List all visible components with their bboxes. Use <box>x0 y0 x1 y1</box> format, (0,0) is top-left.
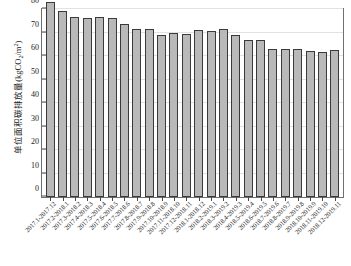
bar[interactable] <box>244 40 253 197</box>
bar-slot <box>316 9 328 197</box>
bar-slot <box>155 9 167 197</box>
bar[interactable] <box>169 33 178 198</box>
y-axis-tick-label: 30 <box>31 113 39 122</box>
bar-slot <box>254 9 266 197</box>
bar-slot <box>242 9 254 197</box>
bar-slot <box>56 9 68 197</box>
y-axis-tick-label: 10 <box>31 160 39 169</box>
bar[interactable] <box>157 35 166 197</box>
y-axis-title-sup: 2 <box>13 44 19 47</box>
bar-chart-figure: 单位面积碳排放量(kgCO2/m2) 01020304050607080 201… <box>0 0 351 266</box>
bar-slot <box>118 9 130 197</box>
bar[interactable] <box>268 49 277 197</box>
bar[interactable] <box>330 50 339 197</box>
y-axis-title-sub: 2 <box>17 56 23 59</box>
bar-slot <box>230 9 242 197</box>
bar-slot <box>94 9 106 197</box>
bar[interactable] <box>145 29 154 197</box>
bar-slot <box>193 9 205 197</box>
bar-slot <box>69 9 81 197</box>
y-axis-title-mid: /m <box>13 47 23 56</box>
bar-series <box>42 9 343 197</box>
bar-slot <box>292 9 304 197</box>
y-axis-tick-label: 60 <box>31 43 39 52</box>
bar[interactable] <box>306 51 315 197</box>
bar-slot <box>279 9 291 197</box>
y-axis-title-prefix: 单位面积碳排放量(kgCO <box>13 59 23 154</box>
bar[interactable] <box>231 35 240 197</box>
bar-slot <box>304 9 316 197</box>
y-axis-tick-label: 20 <box>31 137 39 146</box>
bar[interactable] <box>219 29 228 197</box>
bar-slot <box>131 9 143 197</box>
bar-slot <box>44 9 56 197</box>
bar[interactable] <box>256 40 265 197</box>
bar[interactable] <box>95 17 104 197</box>
bar[interactable] <box>108 18 117 197</box>
bar[interactable] <box>46 2 55 197</box>
bar[interactable] <box>58 11 67 197</box>
bar[interactable] <box>194 30 203 197</box>
bar-slot <box>217 9 229 197</box>
bar[interactable] <box>83 18 92 197</box>
bar[interactable] <box>318 52 327 197</box>
bar-slot <box>205 9 217 197</box>
bar-slot <box>267 9 279 197</box>
bar[interactable] <box>293 49 302 197</box>
bar[interactable] <box>132 29 141 197</box>
bar-slot <box>329 9 341 197</box>
y-axis-tick-label: 40 <box>31 90 39 99</box>
bar[interactable] <box>281 49 290 197</box>
x-axis-labels: 2017.1-2017.122017.2-2018.12017.3-2018.2… <box>41 200 344 262</box>
bar[interactable] <box>182 34 191 197</box>
bar[interactable] <box>207 31 216 197</box>
y-axis-tick-label: 80 <box>31 0 39 5</box>
bar-slot <box>168 9 180 197</box>
bar-slot <box>180 9 192 197</box>
bar-slot <box>106 9 118 197</box>
y-axis-tick-label: 70 <box>31 19 39 28</box>
y-axis-tick-label: 0 <box>35 184 39 193</box>
bar-slot <box>143 9 155 197</box>
bar[interactable] <box>120 24 129 197</box>
bar[interactable] <box>70 17 79 197</box>
plot-area: 01020304050607080 <box>41 8 344 198</box>
y-axis-tick-label: 50 <box>31 66 39 75</box>
bar-slot <box>81 9 93 197</box>
y-axis-title: 单位面积碳排放量(kgCO2/m2) <box>14 2 23 192</box>
